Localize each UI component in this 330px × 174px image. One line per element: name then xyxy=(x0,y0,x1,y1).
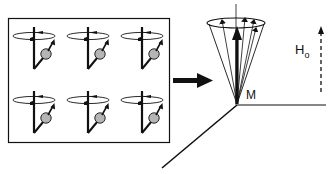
precessing-spin-icon xyxy=(13,91,55,133)
precessing-spin-icon xyxy=(121,27,163,69)
field-label-main: H xyxy=(295,42,304,57)
diagram-canvas xyxy=(0,0,330,174)
dashed-up-arrow-icon xyxy=(318,26,324,92)
field-label: Ho xyxy=(295,42,309,60)
precessing-spin-icon xyxy=(13,27,55,69)
precessing-spin-icon xyxy=(67,91,109,133)
spin-ensemble-box xyxy=(9,19,170,143)
precessing-spin-icon xyxy=(121,91,163,133)
magnetization-label: M xyxy=(246,88,256,102)
precession-cone xyxy=(207,18,265,104)
precessing-spin-icon xyxy=(67,27,109,69)
field-label-subscript: o xyxy=(304,50,309,60)
right-arrow-icon xyxy=(173,73,213,88)
